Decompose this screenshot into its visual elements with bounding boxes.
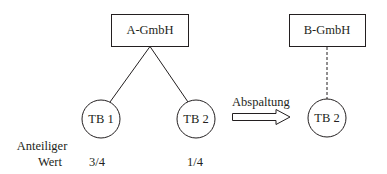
connector-a-to-tb2 xyxy=(150,47,188,103)
connector-a-to-tb1 xyxy=(110,47,150,103)
tb2-left-label: TB 2 xyxy=(183,113,208,126)
tb1-share: 3/4 xyxy=(89,156,105,169)
a-gmbh-label: A-GmbH xyxy=(126,24,173,37)
tb2-right-label: TB 2 xyxy=(314,112,339,125)
abspaltung-label: Abspaltung xyxy=(232,96,290,109)
tb1-label: TB 1 xyxy=(88,113,113,126)
b-gmbh-label: B-GmbH xyxy=(304,24,351,37)
row-label-line1: Anteiliger xyxy=(17,140,68,153)
tb2-share: 1/4 xyxy=(187,156,203,169)
row-label-line2: Wert xyxy=(38,156,62,169)
abspaltung-arrow-icon xyxy=(233,110,291,125)
